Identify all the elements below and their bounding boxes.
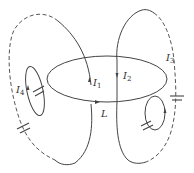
amperian-loop-L — [47, 56, 167, 102]
arrow-I4 — [27, 85, 30, 90]
current-loop-I2 — [116, 10, 185, 164]
ampere-law-diagram: I1 I2 I3 I4 L — [0, 0, 194, 173]
current-loop-I4 — [22, 65, 48, 117]
arrow-I2 — [116, 73, 119, 78]
label-I1: I1 — [92, 77, 101, 90]
label-L: L — [100, 108, 108, 119]
label-I2: I2 — [122, 70, 131, 83]
arrow-right-loop — [164, 108, 167, 113]
arrow-L — [95, 100, 100, 104]
label-I4: I4 — [15, 84, 25, 97]
small-current-loop-right — [141, 96, 167, 130]
